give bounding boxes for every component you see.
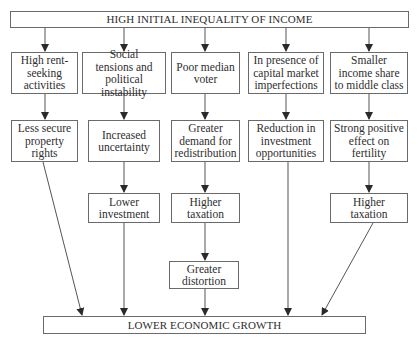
effect-box-lower-investment: Lower investment [88,193,160,223]
effect-box-redistribution: Greater demand for redistribution [171,120,240,162]
effect-box-property-rights: Less secure property rights [11,120,78,162]
top-cause-box: HIGH INITIAL INEQUALITY OF INCOME [10,11,409,28]
cause-box-median-voter: Poor median voter [171,52,240,94]
cause-box-social-tensions: Social tensions and political instabilit… [82,52,166,94]
effect-box-uncertainty: Increased uncertainty [88,120,160,162]
effect-box-fertility: Strong positive effect on fertility [330,120,408,162]
effect-box-higher-taxation-right: Higher taxation [330,193,408,223]
effect-box-investment-opportunities: Reduction in investment opportunities [248,120,324,162]
outcome-box-lower-growth: LOWER ECONOMIC GROWTH [43,316,366,334]
cause-box-capital-market: In presence of capital market imperfecti… [248,52,324,94]
effect-box-higher-taxation-middle: Higher taxation [171,193,240,223]
cause-box-middle-class: Smaller income share to middle class [330,52,408,94]
cause-box-rent-seeking: High rent- seeking activities [11,52,78,94]
effect-box-greater-distortion: Greater distortion [169,261,239,289]
